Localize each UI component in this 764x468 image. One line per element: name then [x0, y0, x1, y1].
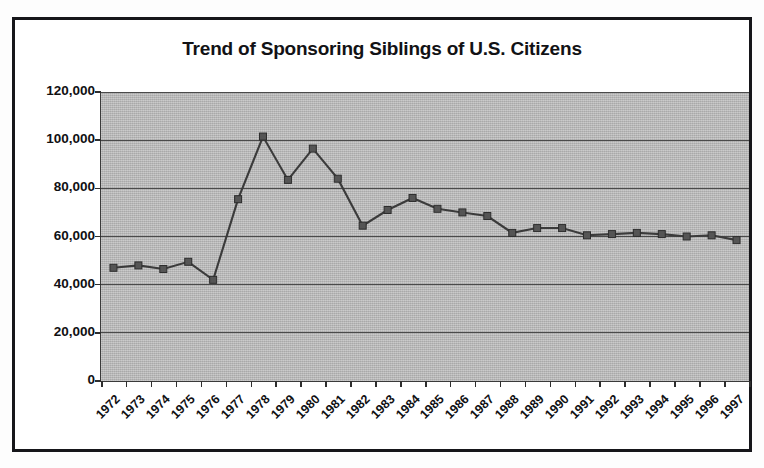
figure-frame: Trend of Sponsoring Siblings of U.S. Cit… [12, 17, 752, 452]
x-axis-tick [226, 381, 228, 387]
data-point [608, 231, 615, 238]
x-axis-label: 1976 [193, 392, 223, 422]
x-axis-label: 1995 [667, 392, 697, 422]
x-axis-tick [400, 381, 402, 387]
y-axis-label: 80,000 [5, 179, 95, 194]
x-axis-label: 1994 [642, 392, 672, 422]
x-axis-label: 1993 [617, 392, 647, 422]
x-axis-label: 1975 [168, 392, 198, 422]
data-point [484, 213, 491, 220]
x-axis-tick [300, 381, 302, 387]
x-axis-label: 1982 [343, 392, 373, 422]
x-axis-tick [450, 381, 452, 387]
data-point [584, 232, 591, 239]
data-point [509, 229, 516, 236]
x-axis-tick [375, 381, 377, 387]
x-axis-tick [350, 381, 352, 387]
x-axis-label: 1997 [717, 392, 747, 422]
data-point [409, 194, 416, 201]
scanned-page: Trend of Sponsoring Siblings of U.S. Cit… [0, 0, 764, 468]
series-line [113, 137, 736, 280]
x-axis-tick [575, 381, 577, 387]
y-axis-label: 100,000 [5, 131, 95, 146]
x-axis-label: 1983 [368, 392, 398, 422]
y-axis-label: 40,000 [5, 276, 95, 291]
x-axis-tick [425, 381, 427, 387]
x-axis-tick [275, 381, 277, 387]
data-point [110, 264, 117, 271]
x-axis-label: 1986 [443, 392, 473, 422]
x-axis-tick [674, 381, 676, 387]
data-point [359, 222, 366, 229]
x-axis-label: 1972 [94, 392, 124, 422]
x-axis-label: 1973 [119, 392, 149, 422]
data-point [708, 232, 715, 239]
data-series [101, 92, 749, 381]
x-axis-tick [101, 381, 103, 387]
data-point [260, 133, 267, 140]
x-axis-tick [599, 381, 601, 387]
x-axis-label: 1974 [143, 392, 173, 422]
data-point [185, 258, 192, 265]
data-point [434, 205, 441, 212]
x-axis-tick [151, 381, 153, 387]
y-axis-label: 60,000 [5, 228, 95, 243]
x-axis-label: 1991 [567, 392, 597, 422]
y-axis-label: 20,000 [5, 324, 95, 339]
x-axis-tick [325, 381, 327, 387]
x-axis-label: 1984 [393, 392, 423, 422]
data-point [210, 276, 217, 283]
data-point [658, 231, 665, 238]
y-axis-label: 0 [5, 372, 95, 387]
x-axis-label: 1987 [467, 392, 497, 422]
x-axis-label: 1981 [318, 392, 348, 422]
chart-title: Trend of Sponsoring Siblings of U.S. Cit… [15, 38, 749, 60]
data-point [633, 229, 640, 236]
x-axis-label: 1977 [218, 392, 248, 422]
x-axis-tick [624, 381, 626, 387]
x-axis-label: 1990 [542, 392, 572, 422]
y-axis-label: 120,000 [5, 83, 95, 98]
x-axis-label: 1978 [243, 392, 273, 422]
x-axis-label: 1979 [268, 392, 298, 422]
x-axis-label: 1996 [692, 392, 722, 422]
x-axis-tick [176, 381, 178, 387]
data-point [309, 145, 316, 152]
plot-area: 120,000100,00080,00060,00040,00020,0000 … [100, 92, 749, 382]
x-axis-tick [525, 381, 527, 387]
x-axis-label: 1985 [418, 392, 448, 422]
data-point [534, 225, 541, 232]
x-axis-tick [500, 381, 502, 387]
data-point [459, 209, 466, 216]
x-axis-tick [475, 381, 477, 387]
x-axis-tick [699, 381, 701, 387]
data-point [160, 266, 167, 273]
x-axis-label: 1988 [492, 392, 522, 422]
x-axis-tick [550, 381, 552, 387]
x-axis-tick [749, 381, 751, 387]
data-point [334, 175, 341, 182]
data-point [559, 225, 566, 232]
x-axis-tick [126, 381, 128, 387]
data-point [235, 196, 242, 203]
data-point [384, 207, 391, 214]
data-point [284, 176, 291, 183]
x-axis-tick [724, 381, 726, 387]
series-markers [110, 133, 740, 283]
x-axis-label: 1992 [592, 392, 622, 422]
data-point [683, 233, 690, 240]
data-point [733, 237, 740, 244]
x-axis-label: 1980 [293, 392, 323, 422]
x-axis-tick [649, 381, 651, 387]
x-axis-label: 1989 [517, 392, 547, 422]
x-axis-tick [201, 381, 203, 387]
x-axis-tick [251, 381, 253, 387]
data-point [135, 262, 142, 269]
